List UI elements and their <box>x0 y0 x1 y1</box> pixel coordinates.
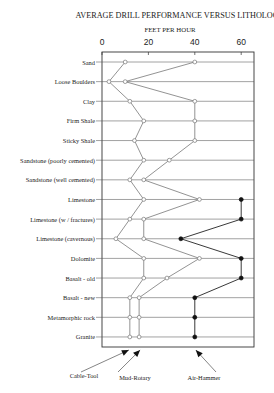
lithology-label: Basalt - old <box>66 275 96 282</box>
data-point-marker <box>198 198 202 202</box>
x-tick-label: 0 <box>100 37 105 47</box>
data-point-marker <box>128 296 132 300</box>
data-point-marker <box>128 217 132 221</box>
data-point-marker <box>142 276 146 280</box>
lithology-label: Firm Shale <box>67 117 95 124</box>
data-point-marker <box>198 257 202 261</box>
lithology-label: Limestone (cavernous) <box>36 235 95 243</box>
data-point-marker <box>193 296 197 300</box>
lithology-label: Basalt - new <box>63 294 95 301</box>
data-point-marker <box>193 139 197 143</box>
x-axis-label: FEET PER HOUR <box>144 26 196 33</box>
data-point-marker <box>133 139 137 143</box>
data-point-marker <box>142 178 146 182</box>
legend-label: Mud-Rotary <box>119 374 151 381</box>
data-point-marker <box>128 335 132 339</box>
data-point-marker <box>128 315 132 319</box>
data-point-marker <box>239 217 243 221</box>
data-point-marker <box>114 237 118 241</box>
lithology-label: Metamorphic rock <box>48 314 96 321</box>
drill-performance-chart: AVERAGE DRILL PERFORMANCE VERSUS LITHOLO… <box>0 0 274 393</box>
data-point-marker <box>128 99 132 103</box>
data-point-marker <box>239 197 243 201</box>
lithology-label: Dolomite <box>71 255 95 262</box>
data-point-marker <box>137 296 141 300</box>
series-line-air-hammer <box>181 199 241 336</box>
data-point-marker <box>239 276 243 280</box>
data-point-marker <box>137 315 141 319</box>
lithology-label: Limestone (w / fractures) <box>30 216 95 224</box>
lithology-label: Loose Boulders <box>55 78 96 85</box>
data-point-marker <box>142 198 146 202</box>
data-point-marker <box>179 237 183 241</box>
lithology-label: Granite <box>76 333 95 340</box>
data-point-marker <box>123 80 127 84</box>
data-point-marker <box>123 60 127 64</box>
legend-label: Cable-Tool <box>70 372 99 379</box>
lithology-label: Limestone <box>68 196 95 203</box>
data-point-marker <box>193 119 197 123</box>
data-point-marker <box>142 119 146 123</box>
data-point-marker <box>239 256 243 260</box>
x-tick-label: 60 <box>236 37 246 47</box>
data-point-marker <box>107 80 111 84</box>
x-tick-label: 40 <box>190 37 200 47</box>
data-point-marker <box>167 158 171 162</box>
data-point-marker <box>193 60 197 64</box>
chart-title: AVERAGE DRILL PERFORMANCE VERSUS LITHOLO… <box>75 11 274 20</box>
lithology-label: Sandstone (well cemented) <box>26 176 95 184</box>
data-point-marker <box>142 237 146 241</box>
data-point-marker <box>193 315 197 319</box>
legend-label: Air-Hammer <box>188 374 222 381</box>
lithology-label: Clay <box>83 98 96 105</box>
lithology-label: Sand <box>82 59 96 66</box>
lithology-label: Sticky Shale <box>63 137 95 144</box>
legend-callouts: Cable-ToolMud-RotaryAir-Hammer <box>70 350 222 381</box>
data-point-marker <box>137 335 141 339</box>
lithology-label: Sandstone (poorly cemented) <box>20 157 95 165</box>
data-point-marker <box>142 257 146 261</box>
data-point-marker <box>142 217 146 221</box>
data-point-marker <box>193 335 197 339</box>
data-point-marker <box>142 158 146 162</box>
data-point-marker <box>193 99 197 103</box>
data-point-marker <box>128 178 132 182</box>
data-point-marker <box>165 276 169 280</box>
x-tick-label: 20 <box>144 37 154 47</box>
